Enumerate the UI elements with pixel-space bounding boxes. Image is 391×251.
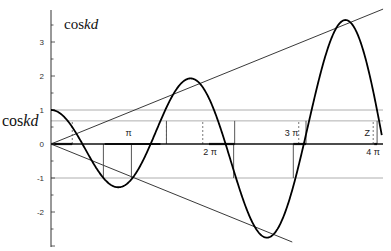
y-tick-label: 3 xyxy=(40,38,45,47)
x-tick-label: 2 π xyxy=(203,147,217,157)
y-tick-label: -1 xyxy=(37,174,45,183)
chart-title-plain: cos xyxy=(64,16,84,32)
curve-group xyxy=(51,20,382,238)
upper-envelope xyxy=(51,9,383,144)
chart-title: coskd xyxy=(64,16,99,32)
y-axis-label-italic: kd xyxy=(23,112,39,129)
y-axis-label-plain: cos xyxy=(2,112,23,129)
chart-title-italic: kd xyxy=(84,16,99,32)
y-tick-label: -2 xyxy=(37,208,45,217)
y-axis-label: coskd xyxy=(2,112,39,129)
x-tick-label: 3 π xyxy=(285,128,299,138)
series-curve xyxy=(51,20,382,238)
x-tick-label: 4 π xyxy=(366,147,380,157)
y-tick-label: 1 xyxy=(40,106,45,115)
y-tick-label: 2 xyxy=(40,72,45,81)
x-tick-label: π xyxy=(125,128,131,138)
chart: 3210-1-2π2 π3 π4 πZ coskd coskd xyxy=(0,0,391,251)
annotation-label: Z xyxy=(365,128,371,138)
envelope-lines xyxy=(51,9,383,242)
y-tick-label: 0 xyxy=(40,140,45,149)
labels: 3210-1-2π2 π3 π4 πZ xyxy=(37,38,380,217)
